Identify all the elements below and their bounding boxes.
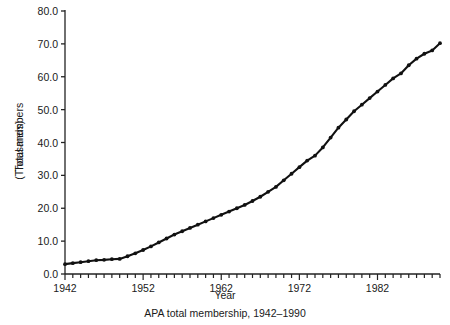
data-point <box>196 223 200 227</box>
data-point <box>407 63 411 67</box>
y-axis-tick-label: 40.0 <box>26 138 58 149</box>
data-point <box>313 154 317 158</box>
data-point <box>235 206 239 210</box>
data-point <box>352 109 356 113</box>
data-point <box>126 254 130 258</box>
data-point <box>399 72 403 76</box>
data-point <box>219 213 223 217</box>
data-point <box>329 136 333 140</box>
data-point <box>290 172 294 176</box>
data-point <box>337 126 341 130</box>
data-point <box>391 76 395 80</box>
data-point <box>376 90 380 94</box>
data-point <box>133 251 137 255</box>
data-point <box>87 259 91 263</box>
data-point <box>266 190 270 194</box>
data-point <box>165 237 169 241</box>
data-point <box>172 233 176 237</box>
data-point <box>157 241 161 245</box>
chart-figure: Total members (Thousands) 0.010.020.030.… <box>0 0 450 325</box>
data-point <box>63 262 67 266</box>
data-point <box>422 52 426 56</box>
data-point <box>204 220 208 224</box>
data-point <box>243 203 247 207</box>
data-point <box>94 258 98 262</box>
y-axis-title-line2: (Thousands) <box>13 95 26 205</box>
y-axis-tick-label: 20.0 <box>26 203 58 214</box>
data-point <box>227 210 231 214</box>
data-point <box>305 159 309 163</box>
data-point <box>368 96 372 100</box>
data-point <box>180 229 184 233</box>
y-axis-tick-label: 50.0 <box>26 105 58 116</box>
y-axis-tick-label: 70.0 <box>26 39 58 50</box>
data-point <box>430 49 434 53</box>
data-point <box>79 260 83 264</box>
data-point <box>344 118 348 122</box>
data-point <box>282 178 286 182</box>
data-point <box>188 226 192 230</box>
y-axis-tick-label: 10.0 <box>26 236 58 247</box>
data-point <box>383 83 387 87</box>
x-axis-title: Year <box>0 289 450 301</box>
data-point <box>360 103 364 107</box>
y-axis-tick-label: 80.0 <box>26 6 58 17</box>
data-point <box>149 244 153 248</box>
y-axis-tick-label: 60.0 <box>26 72 58 83</box>
data-point <box>71 261 75 265</box>
data-point <box>274 185 278 189</box>
data-point <box>321 146 325 150</box>
y-axis-tick-label: 30.0 <box>26 170 58 181</box>
data-point <box>110 257 114 261</box>
y-axis-tick-label: 0.0 <box>26 269 58 280</box>
data-point <box>102 258 106 262</box>
data-point <box>258 195 262 199</box>
data-line <box>65 43 440 264</box>
data-point <box>118 257 122 261</box>
data-point <box>415 57 419 61</box>
data-point <box>297 165 301 169</box>
data-point <box>251 199 255 203</box>
data-point <box>438 41 442 45</box>
data-point <box>212 216 216 220</box>
figure-caption: APA total membership, 1942–1990 <box>0 307 450 319</box>
data-point <box>141 248 145 252</box>
plot-area <box>0 0 450 325</box>
